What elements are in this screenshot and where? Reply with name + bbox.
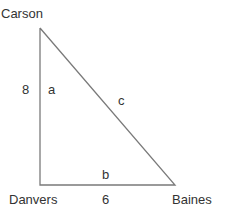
side-b-label: b — [102, 167, 109, 182]
triangle-outline — [40, 28, 175, 185]
side-b-length: 6 — [102, 192, 109, 207]
vertex-label-baines: Baines — [172, 192, 212, 207]
triangle-diagram: Carson Danvers Baines 8 a c b 6 — [0, 0, 225, 213]
vertex-label-danvers: Danvers — [9, 192, 58, 207]
side-a-label: a — [48, 82, 56, 97]
vertex-label-carson: Carson — [1, 6, 43, 21]
side-a-length: 8 — [22, 82, 29, 97]
side-c-label: c — [118, 93, 125, 108]
